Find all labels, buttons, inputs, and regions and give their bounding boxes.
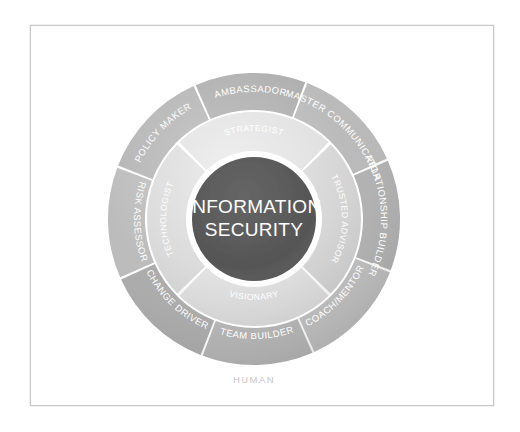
screenshot-canvas: AMBASSADORMASTER COMMUNICATORRELATIONSHI… <box>0 0 520 432</box>
core-title-line2: SECURITY <box>205 219 303 240</box>
core-title-line1: INFORMATION <box>187 196 322 217</box>
information-security-wheel-diagram: AMBASSADORMASTER COMMUNICATORRELATIONSHI… <box>0 0 520 432</box>
wheel-svg: AMBASSADORMASTER COMMUNICATORRELATIONSHI… <box>0 0 520 432</box>
human-caption: HUMAN <box>233 374 275 385</box>
